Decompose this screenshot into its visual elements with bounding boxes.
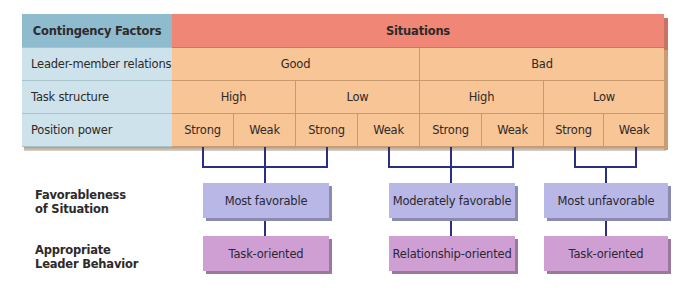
connector-line bbox=[635, 147, 637, 167]
factor-label: Position power bbox=[31, 123, 112, 137]
relations-bad-cell: Bad bbox=[420, 48, 664, 81]
favorableness-label: Favorableness of Situation bbox=[35, 188, 126, 216]
cell-value: Weak bbox=[373, 123, 404, 137]
task-structure-cell: Low bbox=[544, 81, 664, 114]
behavior-label: Appropriate Leader Behavior bbox=[35, 243, 138, 271]
cell-value: Strong bbox=[432, 123, 469, 137]
cell-value: Weak bbox=[497, 123, 528, 137]
position-power-cell: Weak bbox=[358, 114, 420, 147]
behavior-label-line: Leader Behavior bbox=[35, 257, 138, 271]
connector-line bbox=[388, 166, 514, 168]
contingency-factors-header-label: Contingency Factors bbox=[33, 24, 162, 38]
connector-line bbox=[202, 147, 204, 167]
connector-line bbox=[202, 166, 328, 168]
connector-line bbox=[605, 166, 607, 183]
connector-line bbox=[264, 147, 266, 183]
cell-value: Weak bbox=[249, 123, 280, 137]
favorableness-label-line: of Situation bbox=[35, 202, 126, 216]
cell-value: High bbox=[221, 90, 247, 104]
favorableness-label-line: Favorableness bbox=[35, 188, 126, 202]
cell-value: Weak bbox=[619, 123, 650, 137]
favorableness-box-most-unfavorable: Most unfavorable bbox=[544, 183, 668, 218]
position-power-cell: Strong bbox=[172, 114, 234, 147]
behavior-box-relationship-oriented: Relationship-oriented bbox=[389, 236, 515, 271]
favorableness-value: Most unfavorable bbox=[558, 194, 655, 208]
cell-value: Low bbox=[593, 90, 615, 104]
connector-line bbox=[388, 147, 390, 167]
position-power-cell: Strong bbox=[544, 114, 604, 147]
table-bottom-edge bbox=[24, 147, 666, 151]
favorableness-value: Moderately favorable bbox=[393, 194, 512, 208]
cell-value: Low bbox=[346, 90, 368, 104]
factor-position-power: Position power bbox=[22, 114, 172, 147]
contingency-factors-header: Contingency Factors bbox=[22, 14, 172, 48]
connector-line bbox=[450, 147, 452, 183]
cell-value: High bbox=[469, 90, 495, 104]
connector-line bbox=[512, 147, 514, 167]
behavior-label-line: Appropriate bbox=[35, 243, 138, 257]
position-power-cell: Strong bbox=[420, 114, 482, 147]
behavior-value: Relationship-oriented bbox=[393, 247, 512, 261]
position-power-cell: Weak bbox=[482, 114, 544, 147]
factor-leader-member-relations: Leader-member relations bbox=[22, 48, 172, 81]
behavior-value: Task-oriented bbox=[229, 247, 304, 261]
situations-header: Situations bbox=[172, 14, 664, 48]
factor-label: Leader-member relations bbox=[31, 57, 171, 71]
cell-value: Bad bbox=[531, 57, 553, 71]
cell-value: Strong bbox=[184, 123, 221, 137]
connector-line bbox=[326, 147, 328, 167]
factor-label: Task structure bbox=[31, 90, 109, 104]
behavior-box-task-oriented: Task-oriented bbox=[544, 236, 668, 271]
position-power-cell: Weak bbox=[604, 114, 664, 147]
behavior-value: Task-oriented bbox=[569, 247, 644, 261]
favorableness-box-moderately-favorable: Moderately favorable bbox=[389, 183, 515, 218]
cell-value: Strong bbox=[308, 123, 345, 137]
situations-header-label: Situations bbox=[386, 24, 450, 38]
favorableness-value: Most favorable bbox=[225, 194, 308, 208]
favorableness-box-most-favorable: Most favorable bbox=[203, 183, 329, 218]
table-right-edge bbox=[664, 18, 668, 150]
task-structure-cell: Low bbox=[296, 81, 420, 114]
position-power-cell: Strong bbox=[296, 114, 358, 147]
cell-value: Strong bbox=[555, 123, 592, 137]
connector-line bbox=[574, 147, 576, 167]
factor-task-structure: Task structure bbox=[22, 81, 172, 114]
position-power-cell: Weak bbox=[234, 114, 296, 147]
cell-value: Good bbox=[281, 57, 310, 71]
task-structure-cell: High bbox=[172, 81, 296, 114]
behavior-box-task-oriented: Task-oriented bbox=[203, 236, 329, 271]
task-structure-cell: High bbox=[420, 81, 544, 114]
relations-good-cell: Good bbox=[172, 48, 420, 81]
